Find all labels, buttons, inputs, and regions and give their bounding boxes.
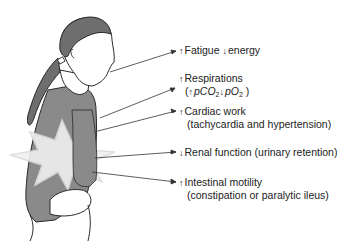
arrow-down-icon: ↓ <box>179 147 184 159</box>
arrowhead-renal <box>171 150 176 154</box>
arrowhead-cardiac <box>171 109 176 113</box>
arrowhead-fatigue <box>171 50 176 54</box>
pointer-line-intestinal <box>92 172 176 182</box>
pointer-line-cardiac <box>94 111 176 132</box>
effect-renal: ↓Renal function (urinary retention) <box>179 146 337 159</box>
arrow-down-icon: ↓ <box>222 45 227 57</box>
arrowhead-intestinal <box>171 179 176 184</box>
pointer-line-fatigue <box>110 51 176 72</box>
arrow-up-icon: ↑ <box>179 106 184 118</box>
effect-intestinal: ↑Intestinal motility (constipation or pa… <box>179 176 329 201</box>
arrow-down-icon: ↓ <box>220 86 225 98</box>
arrow-up-icon: ↑ <box>179 177 184 189</box>
effect-respirations: ↑Respirations (↑pCO2↓pO2 ) <box>179 72 249 101</box>
arrow-up-icon: ↑ <box>179 73 184 85</box>
arrowhead-respirations <box>170 88 175 92</box>
effect-fatigue: ↑Fatigue ↓energy <box>179 44 260 57</box>
arrow-up-icon: ↑ <box>189 86 194 98</box>
pointer-line-respirations <box>100 88 175 118</box>
arrow-up-icon: ↑ <box>179 45 184 57</box>
effect-cardiac: ↑Cardiac work (tachycardia and hypertens… <box>179 105 331 130</box>
arm <box>72 110 97 187</box>
